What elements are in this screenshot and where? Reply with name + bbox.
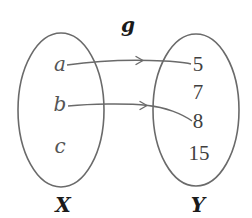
codomain-element-5: 5 bbox=[193, 52, 204, 76]
mapping-line bbox=[68, 104, 192, 121]
function-mapping-diagram: g a b c 5 7 8 15 X Y bbox=[0, 0, 252, 218]
codomain-element-15: 15 bbox=[189, 141, 210, 165]
mapping-line bbox=[67, 60, 191, 65]
function-label: g bbox=[121, 13, 135, 37]
domain-element-c: c bbox=[54, 134, 65, 158]
domain-element-b: b bbox=[54, 92, 67, 116]
mapping-arrow-a-to-5 bbox=[67, 57, 191, 66]
codomain-set-name: Y bbox=[191, 193, 207, 217]
mapping-arrow-b-to-8 bbox=[68, 102, 192, 122]
domain-element-a: a bbox=[54, 52, 66, 76]
codomain-element-8: 8 bbox=[193, 109, 204, 133]
codomain-element-7: 7 bbox=[193, 80, 204, 104]
domain-set-name: X bbox=[53, 193, 72, 217]
